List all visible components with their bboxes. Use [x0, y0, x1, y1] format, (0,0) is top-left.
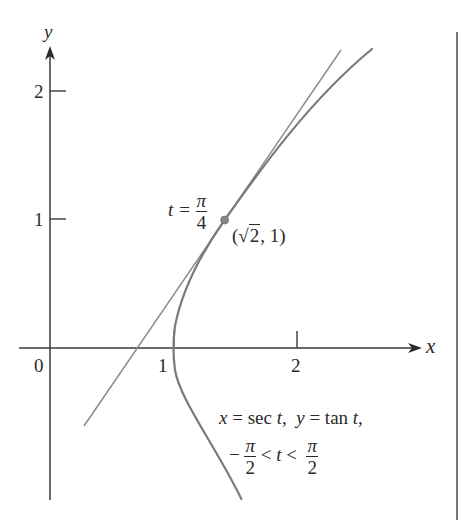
eq-frac-left-den: 2 — [244, 457, 256, 477]
x-axis-label: x — [426, 336, 435, 357]
equation-line-2: − π 2 < t < π 2 — [229, 436, 318, 477]
eq-frac-left-num: π — [244, 436, 256, 457]
eq-lt-2: < — [282, 444, 302, 465]
param-value-annotation: t = π 4 — [168, 191, 207, 232]
param-fraction: π 4 — [196, 191, 208, 232]
eq-sec: = sec — [227, 407, 276, 428]
param-lhs: t = — [168, 199, 191, 220]
y-axis-label: y — [44, 22, 52, 41]
x-tick-label-2: 2 — [291, 356, 301, 375]
origin-label: 0 — [34, 356, 44, 375]
point-coordinates-annotation: (√2, 1) — [232, 226, 286, 245]
y-tick-label-2: 2 — [34, 82, 44, 101]
y-tick-label-1: 1 — [34, 210, 44, 229]
equation-line-1: x = sec t, y = tan t, — [219, 408, 363, 427]
eq-end-comma: , — [358, 407, 363, 428]
param-numerator: π — [196, 191, 208, 212]
sqrt-symbol: √ — [238, 225, 248, 246]
sqrt-two: √2 — [238, 226, 260, 245]
hyperbola-curve — [174, 49, 373, 499]
eq-frac-right: π 2 — [306, 436, 318, 477]
eq-tan: = tan — [305, 407, 353, 428]
eq-frac-right-num: π — [306, 436, 318, 457]
x-tick-label-1: 1 — [158, 356, 168, 375]
tangent-point-marker — [221, 216, 229, 224]
sqrt-argument: 2 — [249, 224, 261, 246]
eq-frac-left: π 2 — [244, 436, 256, 477]
coord-rest: , 1) — [260, 225, 285, 246]
eq-frac-right-den: 2 — [306, 457, 318, 477]
eq-minus: − — [229, 444, 240, 465]
param-denominator: 4 — [196, 212, 208, 232]
eq-comma: , — [282, 407, 296, 428]
eq-y: y — [296, 407, 304, 428]
eq-lt-1: < — [256, 444, 276, 465]
